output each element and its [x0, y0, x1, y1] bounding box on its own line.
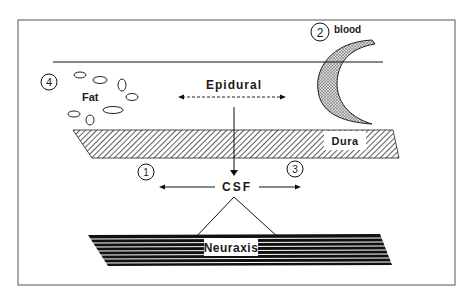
marker-1: 1: [138, 164, 154, 180]
epidural-diagram: 2 blood 4 Fat Epidural Dura 1 3: [0, 0, 475, 295]
marker-3: 3: [287, 161, 303, 177]
svg-text:3: 3: [292, 164, 298, 175]
dura-layer: Dura: [73, 130, 399, 158]
dura-label: Dura: [331, 135, 358, 147]
marker-4: 4: [41, 74, 57, 90]
blood-label: blood: [334, 24, 361, 35]
svg-text:2: 2: [317, 26, 324, 40]
csf-label: CSF: [222, 180, 252, 194]
neuraxis-layer: Neuraxis: [88, 234, 392, 266]
svg-text:1: 1: [143, 167, 149, 178]
neuraxis-label: Neuraxis: [204, 241, 259, 255]
marker-2: 2: [311, 23, 329, 41]
fat-label: Fat: [82, 91, 99, 103]
epidural-label: Epidural: [206, 78, 262, 92]
svg-text:4: 4: [46, 76, 52, 88]
